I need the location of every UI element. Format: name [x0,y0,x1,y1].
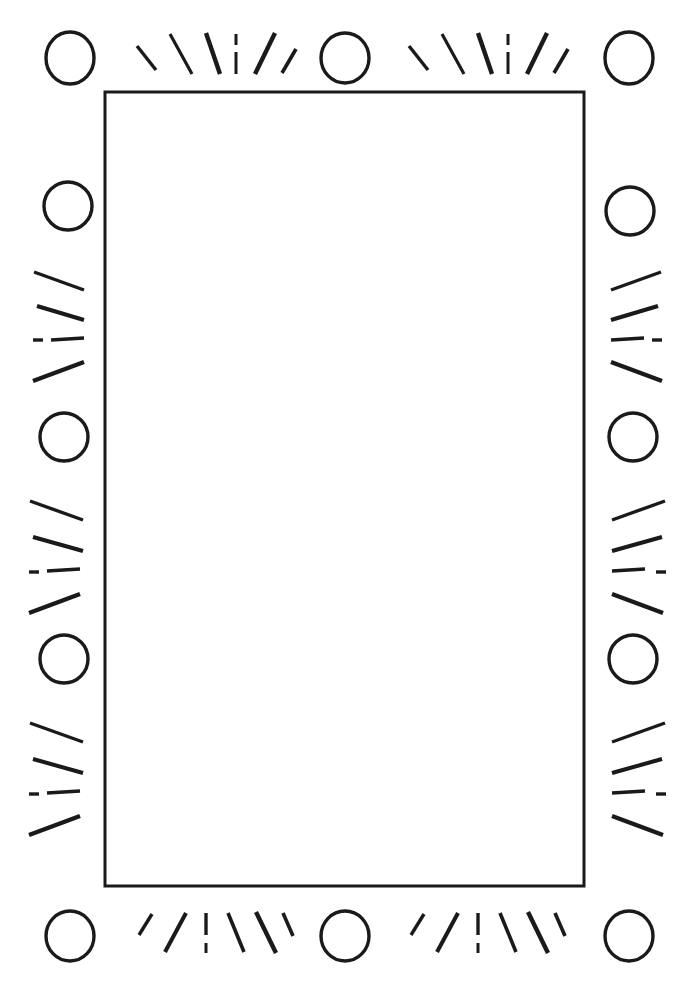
fan-left-lower-segment-tick-4 [47,791,80,793]
fan-right-mid-segment-tick-3 [612,569,645,571]
border-frame-illustration [0,0,687,1001]
fan-left-mid-segment-tick-4 [47,569,80,571]
fan-right-lower-segment-tick-3 [612,791,645,793]
illustration-canvas [0,0,687,1001]
fan-left-upper-segment-tick-4 [51,338,84,340]
fan-right-upper-segment-tick-3 [611,338,644,340]
